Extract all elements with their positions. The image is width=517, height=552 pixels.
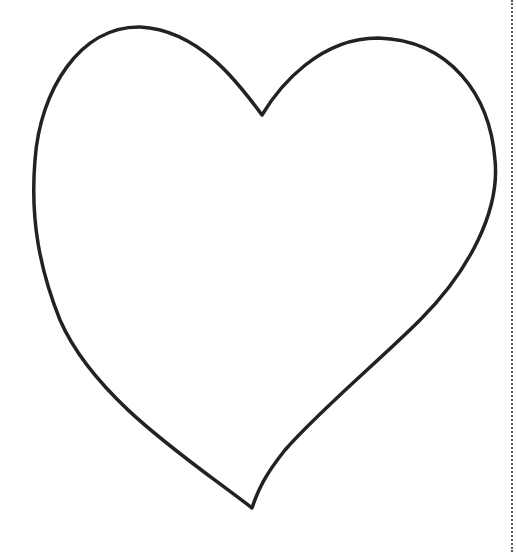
heart-drawing: [0, 0, 517, 552]
cut-line-dotted-divider: [511, 0, 513, 552]
heart-outline-icon: [34, 27, 496, 508]
